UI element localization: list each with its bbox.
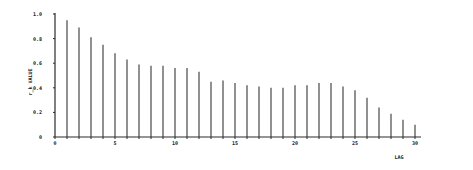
x-ticks-group: 051015202530: [53, 137, 418, 146]
x-tick-label: 25: [352, 140, 358, 146]
x-tick-label: 20: [292, 140, 298, 146]
y-tick-label: 0.2: [33, 109, 42, 115]
y-tick-label: 0.6: [33, 60, 42, 66]
y-tick-label: 0.4: [33, 85, 42, 91]
x-axis-title: LAG: [394, 154, 403, 160]
y-tick-label: 0.8: [33, 36, 42, 42]
x-tick-label: 15: [232, 140, 238, 146]
x-tick-label: 10: [172, 140, 178, 146]
y-ticks-group: 00.20.40.60.81.0: [33, 11, 55, 140]
autocorrelation-chart: 051015202530 00.20.40.60.81.0 LAG r_k VA…: [0, 0, 473, 170]
bars-group: [67, 20, 415, 137]
x-tick-label: 0: [53, 140, 56, 146]
y-tick-label: 0: [39, 134, 42, 140]
x-tick-label: 30: [412, 140, 418, 146]
x-tick-label: 5: [113, 140, 116, 146]
y-axis-title: r_k VALUE: [27, 68, 34, 95]
y-tick-label: 1.0: [33, 11, 42, 17]
